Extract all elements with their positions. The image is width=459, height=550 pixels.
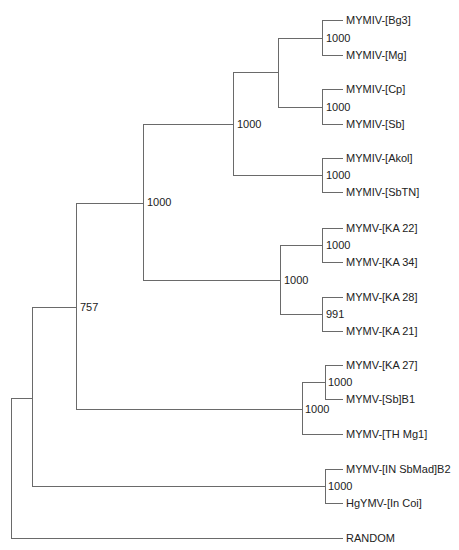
- tip-label: MYMV-[KA 22]: [346, 222, 418, 234]
- support-value: 1000: [284, 274, 308, 286]
- tip-label: MYMIV-[Mg]: [346, 49, 407, 61]
- tip-label: MYMIV-[SbTN]: [346, 186, 419, 198]
- support-value: 1000: [147, 196, 171, 208]
- tip-label: MYMV-[IN SbMad]B2: [346, 463, 451, 475]
- support-value: 1000: [326, 101, 350, 113]
- branch-clade: [278, 38, 322, 107]
- bootstrap-support-values: 1000100010001000100010001000991757100010…: [80, 32, 352, 492]
- branch-clade: [11, 398, 343, 538]
- tip-label: MYMIV-[Bg3]: [346, 14, 411, 26]
- tip-label: RANDOM: [346, 532, 395, 544]
- tip-label: MYMV-[KA 34]: [346, 256, 418, 268]
- tip-label: MYMV-[KA 21]: [346, 325, 418, 337]
- branch-clade: [76, 203, 302, 409]
- tip-label: HgYMV-[In Coi]: [346, 497, 422, 509]
- tip-label: MYMIV-[Akol]: [346, 152, 413, 164]
- support-value: 991: [326, 308, 344, 320]
- support-value: 1000: [328, 376, 352, 388]
- tip-label: MYMIV-[Cp]: [346, 83, 405, 95]
- tip-labels: MYMIV-[Bg3]MYMIV-[Mg]MYMIV-[Cp]MYMIV-[Sb…: [346, 14, 451, 544]
- phylogenetic-tree: 1000100010001000100010001000991757100010…: [0, 0, 459, 550]
- support-value: 1000: [326, 169, 350, 181]
- support-value: 1000: [305, 403, 329, 415]
- tip-label: MYMV-[KA 28]: [346, 291, 418, 303]
- support-value: 757: [80, 301, 98, 313]
- support-value: 1000: [326, 239, 350, 251]
- support-value: 1000: [326, 32, 350, 44]
- support-value: 1000: [237, 118, 261, 130]
- tip-label: MYMV-[KA 27]: [346, 359, 418, 371]
- tip-label: MYMV-[TH Mg1]: [346, 428, 427, 440]
- tip-label: MYMIV-[Sb]: [346, 118, 405, 130]
- support-value: 1000: [328, 480, 352, 492]
- tip-label: MYMV-[Sb]B1: [346, 393, 415, 405]
